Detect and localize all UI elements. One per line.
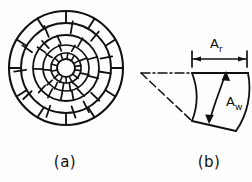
- figure-root: (a): [0, 0, 252, 182]
- label-aw-base: A: [226, 94, 235, 109]
- technical-figure: (a): [0, 0, 252, 182]
- label-ar-base: A: [210, 36, 219, 51]
- label-ar-subscript: r: [219, 44, 223, 54]
- caption-panel-a: (a): [54, 153, 76, 171]
- caption-panel-b: (b): [198, 153, 221, 171]
- label-aw-subscript: w: [235, 102, 242, 112]
